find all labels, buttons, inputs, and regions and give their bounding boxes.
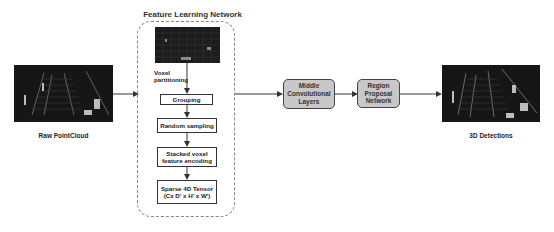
stacked-voxel-encoding-box: Stacked voxel feature encoding xyxy=(157,147,217,167)
arrow-middle-to-rpn xyxy=(335,90,358,98)
raw-pointcloud-label: Raw PointCloud xyxy=(14,132,113,139)
3d-detections-image xyxy=(442,65,540,122)
random-sampling-box: Random sampling xyxy=(157,118,217,133)
rpn-line3: Network xyxy=(366,97,392,105)
feature-learning-title: Feature Learning Network xyxy=(130,10,255,19)
stacked-voxel-line2: feature encoding xyxy=(162,157,212,164)
middle-conv-layers-box: Middle Convolutional Layers xyxy=(283,79,335,109)
arrow-features-to-middle xyxy=(235,90,283,98)
arrow-rpn-to-detections xyxy=(400,90,442,98)
middle-line3: Layers xyxy=(299,98,320,106)
middle-line1: Middle xyxy=(299,82,320,90)
sparse-tensor-line2: (Cx D' x H' x W') xyxy=(164,192,211,199)
grouping-box: Grouping xyxy=(160,94,213,105)
raw-pointcloud-image xyxy=(14,65,113,122)
sparse-tensor-line1: Sparse 4D Tensor xyxy=(161,185,213,192)
voxel-grid-image xyxy=(155,27,220,63)
middle-line2: Convolutional xyxy=(287,90,330,98)
rpn-line2: Proposal xyxy=(365,90,393,98)
arrow-raw-to-features xyxy=(113,90,139,98)
stacked-voxel-line1: Stacked voxel xyxy=(166,150,207,157)
rpn-line1: Region xyxy=(367,82,389,90)
sparse-tensor-box: Sparse 4D Tensor (Cx D' x H' x W') xyxy=(157,180,217,204)
region-proposal-network-box: Region Proposal Network xyxy=(357,79,400,108)
3d-detections-label: 3D Detections xyxy=(442,132,540,139)
